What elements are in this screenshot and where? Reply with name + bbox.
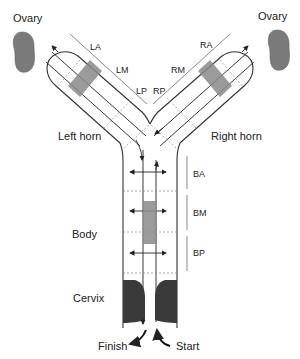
segment-la: LA [90, 42, 101, 52]
cervix-right [155, 280, 177, 323]
cervix-label: Cervix [73, 292, 105, 304]
cervix-left [123, 280, 145, 323]
ovary-right-label: Ovary [258, 10, 288, 22]
right-horn-shaded-region [198, 60, 232, 97]
segment-rp: RP [153, 86, 166, 96]
segment-bp: BP [193, 248, 205, 258]
segment-ra: RA [200, 40, 213, 50]
segment-ba: BA [193, 169, 205, 179]
start-label: Start [176, 340, 199, 352]
left-ovary [13, 32, 34, 72]
segment-rm: RM [171, 65, 185, 75]
left-horn-label: Left horn [58, 130, 101, 142]
segment-lp: LP [136, 86, 147, 96]
segment-bm: BM [193, 208, 207, 218]
right-horn-label: Right horn [211, 130, 262, 142]
body-label: Body [72, 228, 98, 240]
ovary-left-label: Ovary [13, 12, 43, 24]
body-shaded-region [143, 201, 157, 244]
right-ovary [268, 30, 289, 70]
left-horn-shaded-region [68, 60, 102, 97]
segment-lm: LM [116, 65, 129, 75]
finish-label: Finish [98, 340, 127, 352]
uterus-diagram: Ovary Ovary LA LM LP RA RM RP Left horn … [0, 0, 300, 359]
